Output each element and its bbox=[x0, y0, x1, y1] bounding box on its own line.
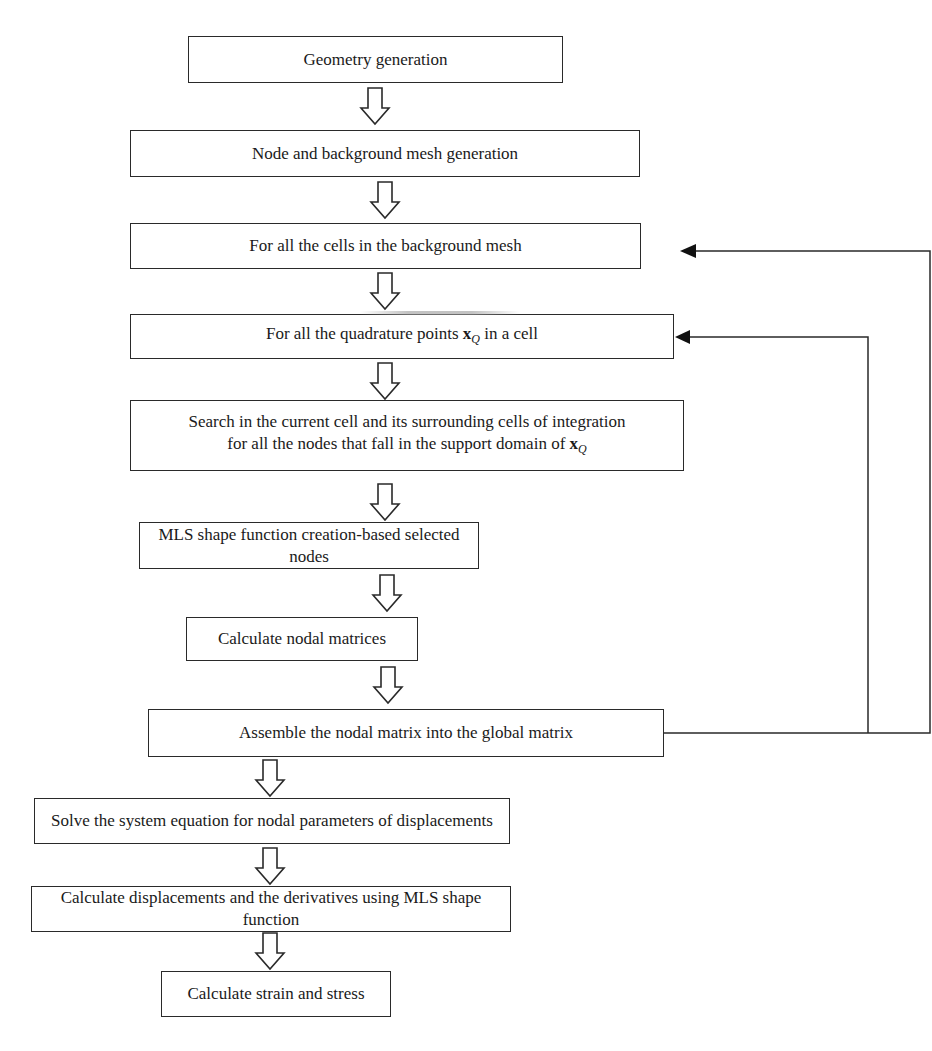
down-arrow-icon bbox=[256, 848, 284, 884]
step-nodal-matrices: Calculate nodal matrices bbox=[186, 617, 418, 661]
step-geometry-generation: Geometry generation bbox=[188, 36, 563, 83]
down-arrow-icon bbox=[361, 88, 389, 124]
step-quadrature-loop: For all the quadrature points xQ in a ce… bbox=[130, 314, 674, 359]
down-arrow-icon bbox=[256, 760, 284, 796]
step-label-line2: for all the nodes that fall in the suppo… bbox=[227, 433, 586, 460]
arrowhead-left-icon bbox=[680, 244, 696, 258]
scan-artifact bbox=[360, 311, 520, 315]
down-arrow-icon bbox=[371, 273, 399, 309]
down-arrow-icon bbox=[374, 667, 402, 703]
step-cells-loop: For all the cells in the background mesh bbox=[130, 223, 641, 269]
step-label: Calculate nodal matrices bbox=[218, 628, 386, 650]
down-arrow-icon bbox=[373, 575, 401, 611]
step-mls-shape-function: MLS shape function creation-based select… bbox=[139, 522, 479, 569]
step-solve-system: Solve the system equation for nodal para… bbox=[34, 798, 510, 844]
down-arrow-icon bbox=[256, 933, 284, 969]
arrowhead-left-icon bbox=[675, 330, 690, 344]
step-label: For all the cells in the background mesh bbox=[249, 235, 521, 257]
step-label: Geometry generation bbox=[304, 49, 448, 71]
subscript-q: Q bbox=[471, 332, 480, 346]
down-arrow-icon bbox=[371, 484, 399, 520]
feedback-edge-to-cells-loop bbox=[664, 244, 930, 733]
step-label: MLS shape function creation-based select… bbox=[148, 524, 470, 568]
step-label: Calculate displacements and the derivati… bbox=[40, 887, 502, 931]
step-calc-displacements: Calculate displacements and the derivati… bbox=[31, 886, 511, 932]
feedback-edge-to-quadrature-loop bbox=[675, 330, 868, 733]
step-label: Assemble the nodal matrix into the globa… bbox=[239, 722, 573, 744]
subscript-q: Q bbox=[578, 442, 587, 456]
step-assemble-global: Assemble the nodal matrix into the globa… bbox=[148, 709, 664, 757]
step-label: Solve the system equation for nodal para… bbox=[51, 810, 493, 832]
step-node-mesh-generation: Node and background mesh generation bbox=[130, 130, 640, 177]
step-label: Calculate strain and stress bbox=[187, 983, 364, 1005]
step-label: Node and background mesh generation bbox=[252, 143, 518, 165]
step-label-line1: Search in the current cell and its surro… bbox=[188, 411, 625, 433]
var-x: x bbox=[570, 434, 579, 453]
down-arrow-icon bbox=[371, 182, 399, 218]
step-label: For all the quadrature points xQ in a ce… bbox=[266, 323, 538, 350]
down-arrow-icon bbox=[371, 363, 399, 399]
step-search-nodes: Search in the current cell and its surro… bbox=[130, 400, 684, 471]
step-strain-stress: Calculate strain and stress bbox=[161, 971, 391, 1017]
